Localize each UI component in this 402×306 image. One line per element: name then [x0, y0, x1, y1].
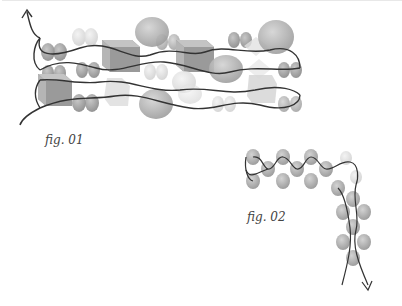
figure-01-beadwork — [20, 10, 302, 125]
beading-diagram — [0, 0, 402, 306]
cube-bead — [38, 74, 72, 106]
figure-01-caption: fig. 01 — [45, 133, 84, 147]
figure-02-caption: fig. 02 — [247, 210, 286, 224]
cube-bead — [176, 40, 214, 72]
